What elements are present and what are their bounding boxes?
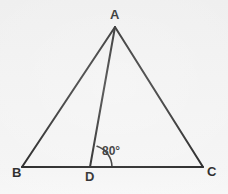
angle-measure-label-adc: 80°: [102, 145, 120, 157]
vertex-label-b: B: [12, 166, 21, 179]
geometry-canvas: [0, 0, 228, 194]
vertex-label-a: A: [110, 8, 119, 21]
geometry-figure: A B C D 80°: [0, 0, 228, 194]
vertex-label-d: D: [85, 170, 94, 183]
segment-ac: [115, 27, 203, 167]
vertex-label-c: C: [207, 165, 216, 178]
